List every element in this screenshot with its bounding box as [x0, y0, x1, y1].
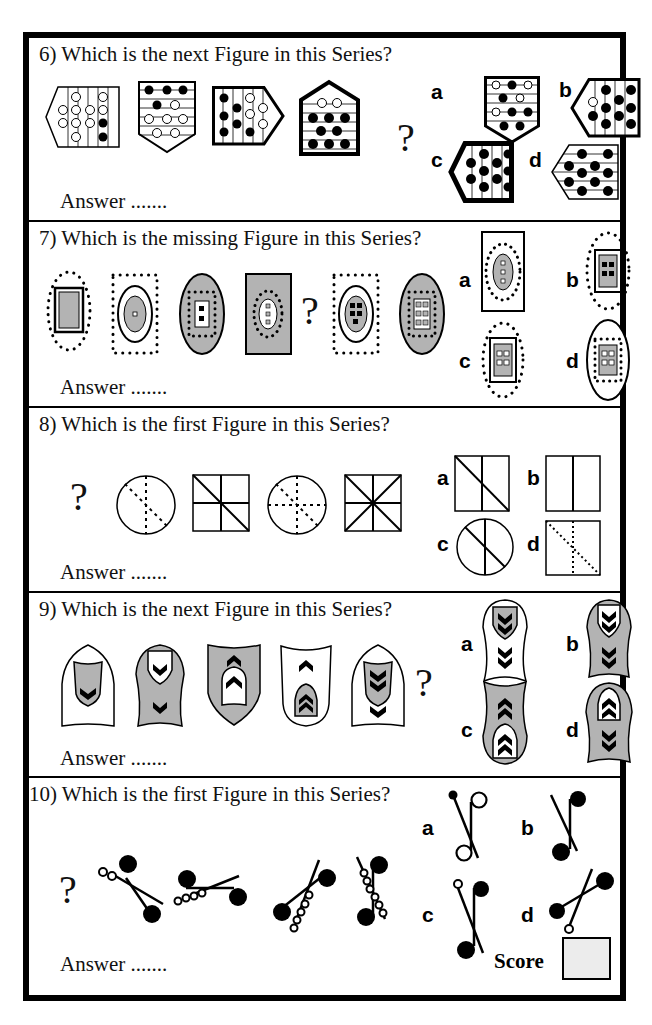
- option-10a-figure[interactable]: [448, 790, 488, 862]
- option-letter-b[interactable]: b: [559, 78, 572, 102]
- figure-6-4: [299, 80, 360, 156]
- option-10c-figure[interactable]: [453, 878, 493, 960]
- option-7c-figure[interactable]: [481, 320, 525, 400]
- score-box[interactable]: [562, 937, 611, 980]
- option-letter-d[interactable]: d: [566, 718, 579, 742]
- figure-8-2: [115, 474, 177, 536]
- option-letter-d[interactable]: d: [566, 349, 579, 373]
- option-letter-b[interactable]: b: [527, 466, 540, 490]
- worksheet-frame: 6) Which is the next Figure in this Seri…: [23, 32, 626, 1001]
- question-7: 7) Which is the missing Figure in this S…: [29, 222, 620, 408]
- figure-10-3: [174, 868, 249, 913]
- option-6a-figure[interactable]: [484, 76, 540, 144]
- question-9: 9) Which is the next Figure in this Seri…: [29, 593, 620, 778]
- option-letter-c[interactable]: c: [437, 532, 449, 556]
- missing-figure-marker: ?: [415, 659, 433, 706]
- option-9a-figure[interactable]: [480, 599, 530, 683]
- option-letter-d[interactable]: d: [527, 532, 540, 556]
- option-10d-figure[interactable]: [547, 867, 617, 937]
- option-letter-b[interactable]: b: [566, 268, 579, 292]
- figure-6-3: [212, 86, 285, 146]
- question-title: 10) Which is the first Figure in this Se…: [29, 782, 390, 807]
- question-title: 6) Which is the next Figure in this Seri…: [39, 42, 392, 67]
- option-letter-a[interactable]: a: [459, 268, 471, 292]
- option-6d-figure[interactable]: [551, 144, 619, 200]
- figure-9-1: [60, 644, 116, 728]
- option-letter-c[interactable]: c: [461, 718, 473, 742]
- option-9d-figure[interactable]: [584, 682, 634, 764]
- figure-6-1: [46, 85, 121, 150]
- figure-7-2: [111, 273, 159, 355]
- missing-figure-marker: ?: [70, 473, 88, 520]
- figure-8-4: [266, 474, 328, 536]
- question-title: 7) Which is the missing Figure in this S…: [39, 226, 421, 251]
- option-9c-figure[interactable]: [480, 680, 530, 766]
- answer-field[interactable]: Answer .......: [60, 560, 167, 585]
- score-label: Score: [494, 949, 544, 974]
- answer-field[interactable]: Answer .......: [60, 952, 167, 977]
- missing-figure-marker: ?: [301, 287, 319, 334]
- figure-7-1: [46, 270, 92, 352]
- option-letter-c[interactable]: c: [431, 148, 443, 172]
- option-letter-b[interactable]: b: [566, 632, 579, 656]
- option-letter-a[interactable]: a: [431, 80, 443, 104]
- option-8c-figure[interactable]: [455, 517, 515, 577]
- question-6: 6) Which is the next Figure in this Seri…: [29, 38, 620, 222]
- figure-7-3: [178, 272, 226, 356]
- option-letter-a[interactable]: a: [437, 466, 449, 490]
- option-8b-figure[interactable]: [545, 455, 601, 512]
- option-letter-d[interactable]: d: [521, 903, 534, 927]
- figure-10-2: [96, 854, 166, 924]
- figure-7-7: [398, 272, 446, 356]
- option-10b-figure[interactable]: [549, 789, 589, 863]
- figure-8-5: [344, 474, 402, 532]
- option-letter-c[interactable]: c: [459, 349, 471, 373]
- figure-7-4: [245, 273, 292, 355]
- question-10: 10) Which is the first Figure in this Se…: [29, 778, 620, 995]
- option-letter-c[interactable]: c: [422, 903, 434, 927]
- question-title: 8) Which is the first Figure in this Ser…: [39, 412, 390, 437]
- option-letter-a[interactable]: a: [422, 816, 434, 840]
- option-letter-d[interactable]: d: [529, 148, 542, 172]
- answer-field[interactable]: Answer .......: [60, 746, 167, 771]
- option-6c-figure[interactable]: [448, 141, 514, 203]
- option-6b-figure[interactable]: [571, 78, 641, 138]
- figure-7-6: [332, 273, 380, 355]
- missing-figure-marker: ?: [397, 114, 415, 161]
- figure-9-2: [134, 644, 186, 728]
- option-letter-a[interactable]: a: [461, 632, 473, 656]
- option-8a-figure[interactable]: [454, 455, 510, 512]
- figure-10-5: [351, 853, 391, 928]
- missing-figure-marker: ?: [59, 866, 77, 913]
- question-title: 9) Which is the next Figure in this Seri…: [39, 597, 392, 622]
- option-8d-figure[interactable]: [545, 520, 601, 576]
- option-7a-figure[interactable]: [481, 231, 525, 312]
- figure-10-4: [272, 858, 337, 933]
- figure-8-3: [192, 474, 250, 532]
- answer-field[interactable]: Answer .......: [60, 189, 167, 214]
- figure-6-2: [138, 81, 196, 153]
- figure-9-3: [206, 643, 262, 727]
- figure-9-4: [279, 644, 333, 728]
- option-7d-figure[interactable]: [585, 318, 631, 402]
- option-letter-b[interactable]: b: [521, 816, 534, 840]
- option-7b-figure[interactable]: [585, 231, 631, 312]
- answer-field[interactable]: Answer .......: [60, 375, 167, 400]
- figure-9-5: [350, 644, 406, 728]
- option-9b-figure[interactable]: [585, 599, 633, 679]
- question-8: 8) Which is the first Figure in this Ser…: [29, 408, 620, 593]
